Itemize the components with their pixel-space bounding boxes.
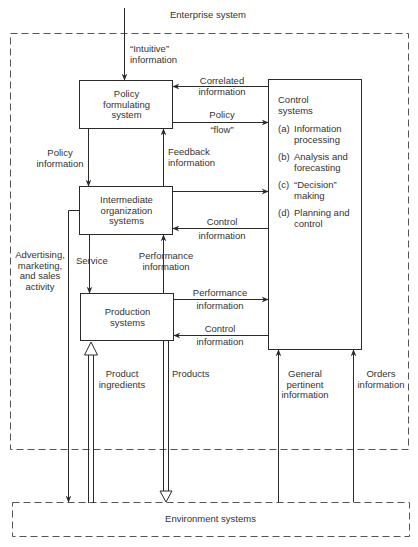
control-item-text: Information processing <box>294 124 342 145</box>
performance-information-label-2-top: Performance <box>188 288 252 299</box>
products-label: Products <box>172 369 210 380</box>
control-information-label-2-bottom: information <box>188 337 252 348</box>
policy-information-label: Policy information <box>34 148 86 169</box>
control-item-c: (c) “Decision” making <box>278 180 349 201</box>
policy-flow-label-top: Policy <box>192 110 252 121</box>
products-arrow <box>160 341 172 502</box>
feedback-information-label: Feedback information <box>168 147 215 168</box>
control-item-text: Planning and control <box>294 208 349 229</box>
control-item-key: (c) <box>278 180 294 201</box>
control-information-label-1-bottom: information <box>190 231 254 242</box>
intuitive-information-label: “Intuitive” information <box>130 44 177 65</box>
environment-systems-label: Environment systems <box>12 514 409 525</box>
control-systems-title: Control systems <box>278 95 349 116</box>
policy-formulating-label: Policy formulating system <box>80 89 173 121</box>
control-item-text: “Decision” making <box>294 180 337 201</box>
service-label: Service <box>76 256 108 267</box>
control-item-key: (b) <box>278 152 294 173</box>
enterprise-system-label: Enterprise system <box>170 10 246 21</box>
control-item-d: (d) Planning and control <box>278 208 349 229</box>
general-pertinent-information-label: General pertinent information <box>280 369 330 401</box>
control-item-b: (b) Analysis and forecasting <box>278 152 349 173</box>
control-information-label-1-top: Control <box>190 217 254 228</box>
control-item-key: (d) <box>278 208 294 229</box>
product-ingredients-label: Product ingredients <box>96 369 148 390</box>
advertising-label: Advertising, marketing, and sales activi… <box>12 250 68 292</box>
control-item-a: (a) Information processing <box>278 124 349 145</box>
intermediate-organization-label: Intermediate organization systems <box>80 195 173 227</box>
control-item-text: Analysis and forecasting <box>294 152 348 173</box>
control-item-key: (a) <box>278 124 294 145</box>
policy-flow-label-bottom: “flow” <box>192 125 252 136</box>
product-ingredients-arrow <box>85 342 98 503</box>
control-information-label-2-top: Control <box>188 324 252 335</box>
performance-information-label-2-bottom: information <box>188 301 252 312</box>
production-systems-label: Production systems <box>81 307 174 328</box>
performance-information-label-1: Performance information <box>136 251 196 272</box>
orders-information-label: Orders information <box>355 369 407 390</box>
correlated-information-label: Correlated information <box>192 76 252 97</box>
control-systems-content: Control systems (a) Information processi… <box>278 95 349 236</box>
